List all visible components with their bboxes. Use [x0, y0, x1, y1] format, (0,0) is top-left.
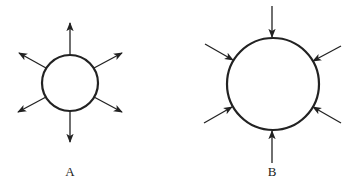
circle-b [227, 38, 319, 130]
arrow-icon [313, 107, 341, 123]
arrow-icon [94, 97, 122, 112]
arrow-icon [18, 97, 46, 112]
arrow-icon [313, 46, 341, 61]
arrow-icon [94, 53, 122, 68]
arrow-icon [19, 53, 46, 68]
arrow-icon [205, 44, 233, 60]
arrow-icon [204, 107, 232, 123]
figure-b-compressed-circle [204, 6, 341, 163]
circle-a [42, 55, 98, 111]
figure-a-expanding-circle [18, 23, 122, 142]
diagram-canvas [0, 0, 354, 185]
figure-a-label: A [65, 164, 74, 180]
figure-b-label: B [268, 164, 277, 180]
